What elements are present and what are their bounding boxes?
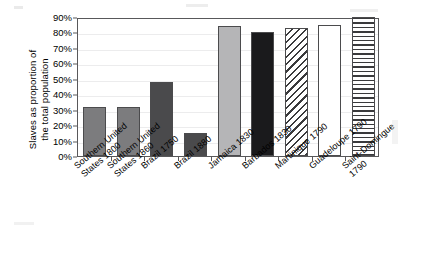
y-axis-tick-label: 10% [32, 137, 72, 147]
y-axis-tick-label: 80% [32, 29, 72, 39]
scan-artifact [14, 6, 23, 9]
y-axis-tick-label: 40% [32, 90, 72, 100]
scan-artifact [350, 9, 378, 12]
y-axis-tick-label: 60% [32, 60, 72, 70]
y-axis-tick-label: 90% [32, 13, 72, 23]
bar-chart-figure: Slaves as proportion of the total popula… [0, 0, 421, 258]
y-axis-tick-label: 0% [32, 152, 72, 162]
y-axis-tick-label: 70% [32, 44, 72, 54]
y-axis-tick-label: 50% [32, 75, 72, 85]
scan-artifact [14, 222, 34, 225]
y-axis-tick-label: 30% [32, 106, 72, 116]
scan-artifact [186, 4, 208, 7]
y-axis-tick-label: 20% [32, 121, 72, 131]
